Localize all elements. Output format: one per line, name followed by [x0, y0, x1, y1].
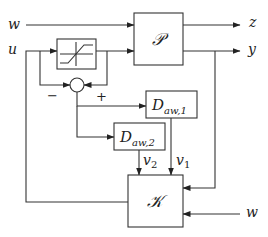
v2-label: v2: [143, 152, 157, 170]
w-ctrl-label: w: [246, 204, 258, 220]
v1-label: v1: [176, 152, 190, 170]
saturation-block: [57, 39, 96, 69]
to-daw2-arrow: [77, 106, 114, 137]
minus-sign: −: [47, 88, 58, 103]
controller-block: 𝒦: [128, 175, 183, 227]
plus-sign: +: [96, 89, 107, 104]
z-output-signal: z: [183, 14, 257, 30]
w-input-signal: w: [8, 16, 134, 32]
daw2-block: Daw,2: [114, 123, 165, 150]
daw1-block: Daw,1: [146, 91, 197, 118]
z-output-label: z: [248, 14, 257, 30]
w-input-label: w: [8, 16, 20, 32]
plant-block: 𝒫: [134, 13, 183, 65]
to-daw1-arrow: [77, 92, 146, 106]
block-diagram: 𝒫 w z y u − +: [0, 0, 268, 237]
y-output-label: y: [247, 41, 257, 57]
u-input-label: u: [8, 41, 17, 57]
